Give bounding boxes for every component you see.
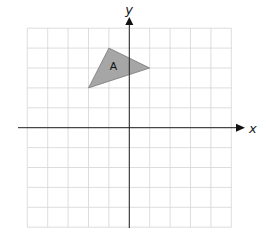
coordinate-plane: A x y [0,0,266,242]
x-axis-label: x [248,121,257,136]
y-axis-label: y [124,2,133,17]
axes: x y [18,2,257,228]
shape-label: A [110,60,118,72]
y-axis-arrow-icon [125,17,133,25]
x-axis-arrow-icon [236,124,245,132]
